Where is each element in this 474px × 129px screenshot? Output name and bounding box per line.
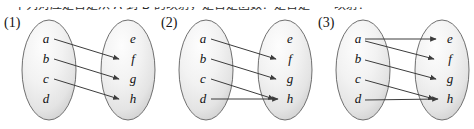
panel-3-graphic: a b c d e f g h <box>314 10 474 129</box>
node-label-d-2: d <box>200 91 207 106</box>
node-label-b-1: b <box>43 51 50 66</box>
panel-2-graphic: a b c d e f g h <box>157 10 315 129</box>
node-label-g-3: g <box>447 71 454 86</box>
mapping-panel-2: (2) a b c d e f g h <box>157 10 315 129</box>
node-label-a-2: a <box>200 31 207 46</box>
node-label-h-2: h <box>287 91 294 106</box>
cut-off-header-text: 下列对应是否是从 A 到 B 的映射，是否是函数？是否是一一映射？ <box>0 0 474 10</box>
node-label-a-3: a <box>355 31 362 46</box>
node-label-e-1: e <box>130 31 136 46</box>
mapping-panel-1: (1) a b c d e f g h <box>0 10 158 129</box>
node-label-a-1: a <box>43 31 50 46</box>
node-label-e-2: e <box>287 31 293 46</box>
node-label-h-1: h <box>130 91 137 106</box>
node-label-g-1: g <box>130 71 137 86</box>
node-label-b-2: b <box>200 51 207 66</box>
node-label-h-3: h <box>447 91 454 106</box>
mapping-diagram-figure: (1) a b c d e f g h <box>0 10 474 129</box>
node-label-d-3: d <box>355 91 362 106</box>
node-label-c-3: c <box>355 71 361 86</box>
codomain-ellipse-2 <box>258 20 312 120</box>
node-label-d-1: d <box>43 91 50 106</box>
node-label-c-2: c <box>200 71 206 86</box>
panel-1-graphic: a b c d e f g h <box>0 10 158 129</box>
node-label-c-1: c <box>43 71 49 86</box>
node-label-e-3: e <box>447 31 453 46</box>
node-label-b-3: b <box>355 51 362 66</box>
node-label-g-2: g <box>287 71 294 86</box>
codomain-ellipse-1 <box>101 20 155 120</box>
domain-ellipse-3 <box>336 20 390 120</box>
codomain-ellipse-3 <box>415 20 469 120</box>
mapping-panel-3: (3) a b c d e f g h <box>314 10 472 129</box>
